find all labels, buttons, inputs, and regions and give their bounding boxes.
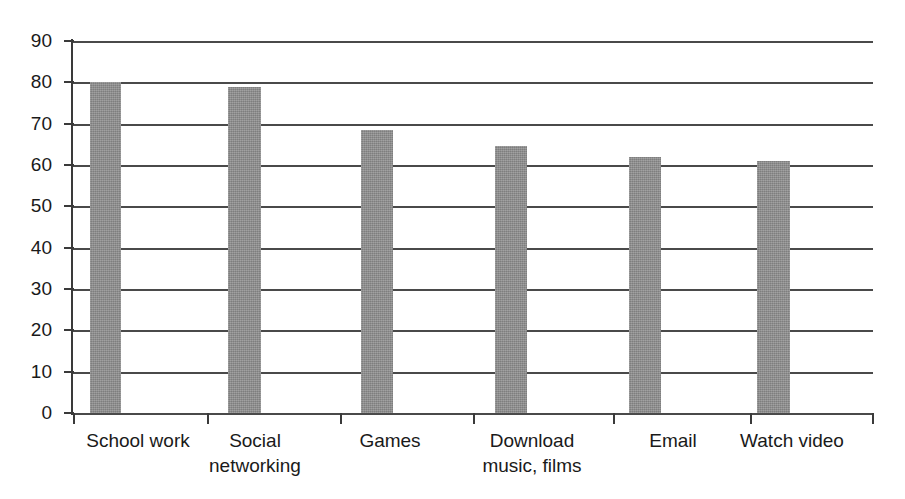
- y-axis-line: [71, 39, 73, 415]
- x-tick-mark-6: [872, 413, 874, 424]
- gridline-40: [73, 248, 873, 250]
- bar-email: [629, 157, 661, 413]
- bar-school-work: [90, 82, 121, 413]
- y-tick-label-60: 60: [4, 155, 52, 174]
- y-tick-label-40: 40: [4, 238, 52, 257]
- y-tick-label-10: 10: [4, 362, 52, 381]
- y-tick-label-80: 80: [4, 72, 52, 91]
- x-axis-label-games: Games: [325, 428, 455, 453]
- gridline-60: [73, 165, 873, 167]
- bar-chart: 90 80 70 60 50 40 30 20 10 0 School work…: [0, 0, 905, 499]
- gridline-30: [73, 289, 873, 291]
- bar-download-music-films: [495, 146, 527, 413]
- x-axis-label-download-music-films: Download music, films: [452, 428, 612, 478]
- bar-games: [361, 130, 393, 413]
- x-axis-label-line: Download: [452, 428, 612, 453]
- x-axis-label-social-networking: Social networking: [180, 428, 330, 478]
- gridline-80: [73, 82, 873, 84]
- x-tick-mark-3: [473, 413, 475, 424]
- y-tick-mark-10: [64, 371, 74, 373]
- x-axis-label-line: music, films: [452, 453, 612, 478]
- x-tick-mark-4: [613, 413, 615, 424]
- y-tick-mark-20: [64, 329, 74, 331]
- y-tick-mark-40: [64, 247, 74, 249]
- gridline-20: [73, 330, 873, 332]
- y-tick-mark-70: [64, 123, 74, 125]
- y-tick-mark-60: [64, 164, 74, 166]
- x-tick-mark-1: [207, 413, 209, 424]
- y-tick-label-30: 30: [4, 279, 52, 298]
- x-tick-mark-5: [750, 413, 752, 424]
- x-axis-label-line: networking: [180, 453, 330, 478]
- x-tick-mark-2: [340, 413, 342, 424]
- gridline-50: [73, 206, 873, 208]
- x-axis-label-line: Social: [180, 428, 330, 453]
- y-tick-mark-30: [64, 288, 74, 290]
- x-tick-mark-0: [73, 413, 75, 424]
- gridline-70: [73, 124, 873, 126]
- y-tick-mark-80: [64, 81, 74, 83]
- bar-social-networking: [228, 87, 261, 414]
- plot-area: [73, 41, 873, 413]
- y-tick-label-70: 70: [4, 114, 52, 133]
- y-tick-label-90: 90: [4, 31, 52, 50]
- gridline-90: [73, 41, 873, 43]
- y-tick-mark-90: [64, 40, 74, 42]
- y-tick-label-50: 50: [4, 196, 52, 215]
- gridline-10: [73, 372, 873, 374]
- y-tick-mark-50: [64, 205, 74, 207]
- x-axis-label-line: Watch video: [712, 428, 872, 453]
- x-axis-label-line: Games: [325, 428, 455, 453]
- y-tick-label-0: 0: [4, 403, 52, 422]
- x-axis-label-watch-video: Watch video: [712, 428, 872, 453]
- bar-watch-video: [757, 161, 790, 413]
- y-tick-label-20: 20: [4, 320, 52, 339]
